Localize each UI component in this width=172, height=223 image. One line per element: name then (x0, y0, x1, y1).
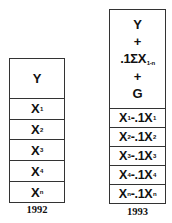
row-b-sub: 4 (153, 172, 156, 178)
row-main: X (31, 122, 39, 137)
row-x2: X2 (10, 119, 64, 140)
row-xn: Xn (10, 181, 64, 202)
row-op: -.1X (131, 130, 153, 144)
row-sub: 4 (40, 168, 43, 174)
row-op: -.1X (131, 149, 153, 163)
row-main: X (31, 101, 39, 116)
sum-main: .1ΣX (120, 51, 146, 66)
row-main: X (31, 185, 39, 200)
row-x1: X1 (10, 98, 64, 119)
row-b-sub: 1 (153, 115, 156, 121)
row-main: X (31, 164, 39, 179)
header-plus-2: + (134, 70, 141, 83)
row-sub: 3 (40, 147, 43, 153)
column-1992: Y X1 X2 X3 X4 Xn (9, 58, 65, 203)
stack-box-1992: Y X1 X2 X3 X4 Xn (9, 58, 65, 203)
row-a: X (119, 130, 127, 144)
row-a: X (119, 149, 127, 163)
row-xn-adjusted: Xn-.1Xn (110, 184, 165, 203)
row-a: X (119, 187, 127, 201)
sum-sub: 1-n (147, 60, 155, 66)
row-sub: n (40, 189, 43, 195)
stack-box-1993: Y + .1ΣX1-n + G X1-.1X1 X2-.1X2 X3-.1X3 … (109, 9, 166, 204)
row-sub: 1 (40, 106, 43, 112)
row-op: -.1X (131, 187, 153, 201)
row-b-sub: n (153, 191, 156, 197)
row-b-sub: 3 (153, 153, 156, 159)
row-x3: X3 (10, 139, 64, 160)
header-y: Y (33, 72, 41, 85)
header-cell-1993: Y + .1ΣX1-n + G (110, 10, 165, 108)
row-b-sub: 2 (153, 134, 156, 140)
row-x3-adjusted: X3-.1X3 (110, 146, 165, 165)
row-a: X (119, 168, 127, 182)
row-op: -.1X (131, 168, 153, 182)
row-main: X (31, 143, 39, 158)
column-1993: Y + .1ΣX1-n + G X1-.1X1 X2-.1X2 X3-.1X3 … (109, 9, 166, 204)
header-plus-1: + (134, 35, 141, 48)
header-g: G (133, 87, 143, 100)
row-sub: 2 (40, 127, 43, 133)
row-op: -.1X (131, 111, 153, 125)
year-label-1993: 1993 (109, 206, 166, 217)
year-label-1992: 1992 (9, 204, 65, 215)
row-x4: X4 (10, 160, 64, 181)
header-y: Y (133, 18, 141, 31)
row-x2-adjusted: X2-.1X2 (110, 127, 165, 146)
header-cell-1992: Y (10, 59, 64, 98)
row-x1-adjusted: X1-.1X1 (110, 108, 165, 127)
header-sum-term: .1ΣX1-n (120, 52, 155, 66)
row-a: X (119, 111, 127, 125)
row-x4-adjusted: X4-.1X4 (110, 165, 165, 184)
